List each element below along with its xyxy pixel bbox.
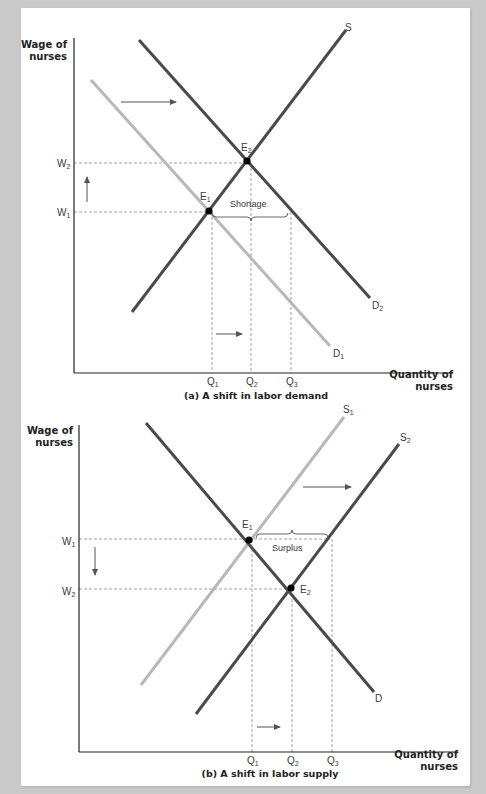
equilibrium-point-e2: [287, 584, 294, 591]
d2-label: D2: [372, 300, 383, 312]
x-axis-title-line1: Quantity of: [389, 369, 453, 380]
y-axis-title-line1: Wage of: [21, 39, 68, 50]
e1-label: E1: [242, 519, 253, 531]
e2-label: E2: [241, 142, 252, 154]
e1-label: E1: [200, 191, 211, 203]
equilibrium-point-e2: [243, 157, 250, 164]
shortage-brace: [212, 213, 288, 221]
d-label: D: [375, 693, 382, 704]
q3-tick: Q3: [327, 755, 339, 767]
caption-a: (a) A shift in labor demand: [184, 390, 328, 401]
y-axis-title-line2: nurses: [29, 51, 67, 62]
q3-tick: Q3: [286, 376, 298, 388]
x-axis-title-line2: nurses: [420, 761, 458, 772]
supply-curve-s2: [196, 444, 399, 714]
w2-tick: W2: [57, 158, 70, 170]
equilibrium-point-e1: [205, 207, 212, 214]
labor-market-figure: Shortage E1 E2 S D2 D1 W2 W1 Q1 Q2 Q3 Wa…: [0, 0, 486, 794]
supply-curve-s: [132, 30, 346, 312]
chart-labor-demand: Shortage E1 E2 S D2 D1 W2 W1 Q1 Q2 Q3 Wa…: [21, 22, 454, 401]
s2-label: S2: [400, 432, 411, 444]
x-axis-title-line1: Quantity of: [394, 749, 458, 760]
x-axis-title-line2: nurses: [415, 381, 453, 392]
s1-label: S1: [343, 404, 354, 416]
q2-tick: Q2: [287, 755, 299, 767]
e2-label: E2: [300, 584, 311, 596]
surplus-brace: [256, 530, 328, 538]
y-axis-title-line1: Wage of: [27, 425, 74, 436]
d1-label: D1: [333, 348, 344, 360]
q1-tick: Q1: [207, 376, 219, 388]
caption-b: (b) A shift in labor supply: [202, 768, 340, 779]
q2-tick: Q2: [246, 376, 258, 388]
supply-curve-s1: [141, 417, 344, 685]
w2-tick: W2: [62, 586, 75, 598]
equilibrium-point-e1: [245, 536, 252, 543]
surplus-label: Surplus: [272, 543, 303, 553]
w1-tick: W1: [62, 536, 75, 548]
shortage-label: Shortage: [230, 199, 267, 209]
guide-lines: [79, 539, 332, 752]
s-label: S: [345, 22, 352, 33]
chart-labor-supply: Surplus E1 E2 S1 S2 D W1 W2 Q1 Q2 Q3 Wag…: [27, 404, 459, 779]
y-axis-title-line2: nurses: [35, 437, 73, 448]
demand-curve-d: [146, 423, 374, 692]
w1-tick: W1: [57, 207, 70, 219]
q1-tick: Q1: [247, 755, 259, 767]
